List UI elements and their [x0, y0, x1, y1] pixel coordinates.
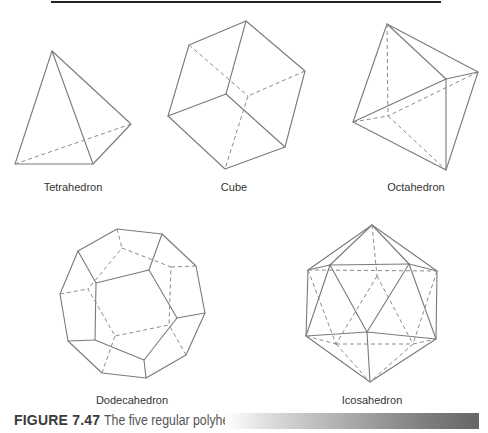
octahedron-drawing [353, 24, 478, 170]
label-icosahedron: Icosahedron [342, 394, 403, 406]
cube-drawing [168, 21, 305, 169]
polyhedra-figure [0, 0, 488, 433]
label-dodecahedron: Dodecahedron [96, 394, 168, 406]
label-octahedron: Octahedron [387, 181, 444, 193]
tetrahedron-drawing [15, 51, 131, 164]
label-tetrahedron: Tetrahedron [44, 181, 103, 193]
figure-number: FIGURE 7.47 [14, 412, 100, 428]
caption-gradient-bar [225, 413, 479, 429]
label-cube: Cube [221, 181, 247, 193]
icosahedron-drawing [306, 225, 437, 382]
dodecahedron-drawing [60, 229, 205, 378]
